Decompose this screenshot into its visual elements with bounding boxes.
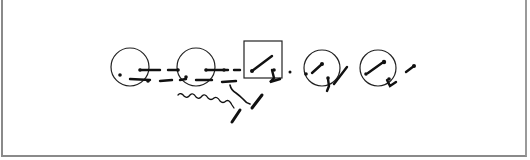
square-node xyxy=(244,41,282,78)
dashed-connections xyxy=(130,56,414,122)
circle-node-4 xyxy=(360,50,396,86)
diagram-canvas xyxy=(0,0,530,160)
circle-node-3 xyxy=(304,50,340,86)
